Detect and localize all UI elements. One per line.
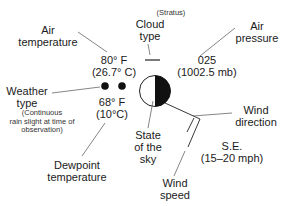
cloud-type-label: Cloud type [130, 18, 170, 42]
dewpoint-value: 68° F (10°C) [88, 96, 136, 120]
weather-type-note: (Continuous rain slight at time of obser… [2, 109, 82, 135]
wind-barb-staff-icon [165, 103, 200, 119]
air-temperature-value: 80° F (26.7° C) [84, 54, 144, 78]
wind-value: S.E. (15–20 mph) [196, 140, 268, 164]
weather-type-leader [52, 87, 100, 93]
air-pressure-label: Air pressure [222, 20, 284, 44]
weather-type-label: Weather type [2, 85, 52, 109]
state-of-sky-label: State of the sky [128, 129, 168, 165]
wind-speed-leader [174, 151, 185, 176]
rain-dot-icon [118, 82, 126, 90]
dewpoint-temperature-label: Dewpoint temperature [42, 159, 112, 183]
cloud-type-note: (Stratus) [151, 9, 191, 18]
wind-speed-label: Wind speed [155, 177, 195, 201]
sky-cover-half-icon [155, 76, 171, 107]
air-pressure-value: 025 (1002.5 mb) [174, 54, 240, 78]
cloud-type-leader [148, 44, 150, 55]
dewpoint-leader [82, 123, 105, 156]
rain-dot-icon [101, 82, 109, 90]
wind-barb-half-feather-icon [187, 118, 194, 132]
wind-direction-leader [193, 113, 232, 116]
air-temperature-label: Air temperature [8, 24, 88, 48]
wind-direction-label: Wind direction [228, 104, 284, 128]
